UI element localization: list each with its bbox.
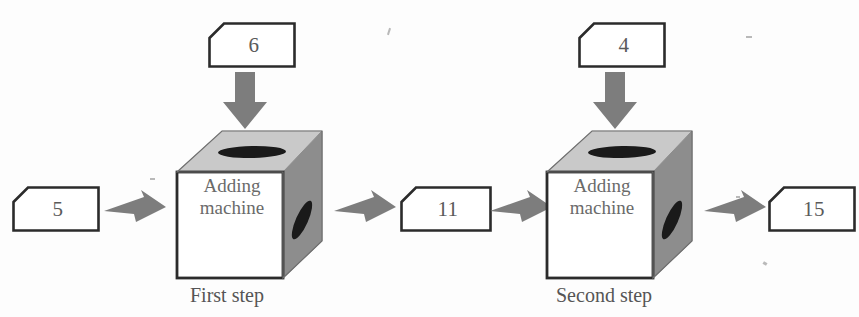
output-tag-15-value: 15	[768, 186, 856, 232]
adding-machine-2: Adding machine	[542, 128, 692, 283]
input-tag-6: 6	[208, 22, 296, 68]
caption-second-step: Second step	[556, 284, 652, 307]
arrow-down-into-machine-2	[591, 72, 639, 130]
machine-label-line1: Adding	[179, 175, 285, 197]
intermediate-tag-11-value: 11	[400, 186, 492, 232]
adding-machine-1: Adding machine	[172, 128, 322, 283]
input-tag-5: 5	[12, 186, 100, 232]
diagram-canvas: 5 6	[0, 0, 859, 317]
adding-machine-2-label: Adding machine	[549, 175, 655, 220]
arrow-down-into-machine-1	[221, 72, 269, 130]
scan-speck	[736, 196, 740, 198]
input-tag-4-value: 4	[578, 22, 666, 68]
arrow-right-out-of-machine-1	[330, 186, 400, 232]
arrow-right-out-of-machine-2	[700, 186, 770, 232]
caption-first-step: First step	[190, 284, 264, 307]
scan-speck	[150, 178, 155, 180]
machine-label-line2: machine	[179, 197, 285, 219]
intermediate-tag-11: 11	[400, 186, 492, 232]
machine-label-line2: machine	[549, 197, 655, 219]
arrow-right-into-machine-1	[100, 186, 170, 232]
scan-speck	[746, 36, 752, 38]
input-tag-5-value: 5	[12, 186, 100, 232]
input-tag-4: 4	[578, 22, 666, 68]
scan-speck	[387, 28, 391, 35]
input-tag-6-value: 6	[208, 22, 296, 68]
output-tag-15: 15	[768, 186, 856, 232]
adding-machine-1-label: Adding machine	[179, 175, 285, 220]
scan-speck	[763, 261, 768, 266]
machine-label-line1: Adding	[549, 175, 655, 197]
